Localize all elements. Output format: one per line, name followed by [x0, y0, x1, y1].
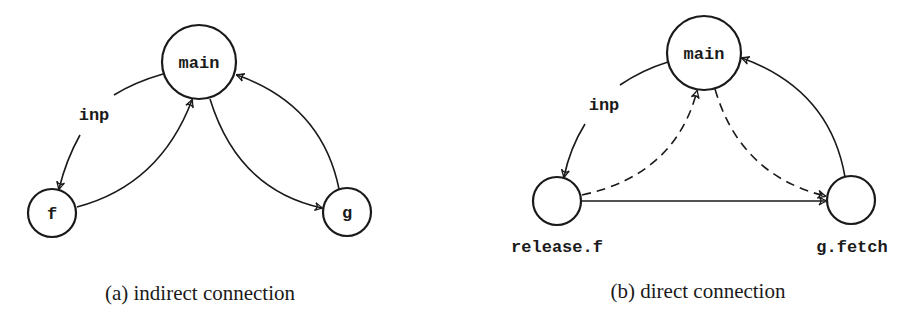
edge-main-to-f-upper [114, 74, 163, 95]
caption-a: (a) indirect connection [105, 281, 296, 305]
node-main-label: main [179, 54, 220, 73]
node-g-fetch [827, 176, 875, 224]
node-g-label: g [342, 204, 352, 223]
edge-main-to-g-fetch-dashed [715, 89, 825, 196]
edge-label-inp: inp [79, 106, 110, 125]
edge-main-to-g [210, 99, 322, 208]
node-release-f-label: release.f [511, 238, 603, 257]
edge-main-to-release-f-upper [620, 62, 668, 85]
edge-label-inp-b: inp [589, 96, 620, 115]
panel-b: main inp release.f g.fetch (b) direct co… [511, 16, 888, 303]
node-g-fetch-label: g.fetch [816, 238, 887, 257]
edge-main-to-release-f-lower [564, 124, 585, 177]
node-main-b-label: main [684, 45, 725, 64]
panel-a: main f g inp (a) indirect connection [28, 25, 371, 305]
edge-g-fetch-to-main [742, 58, 845, 177]
caption-b: (b) direct connection [611, 279, 786, 303]
node-release-f [533, 177, 581, 225]
edge-main-to-f-lower [59, 135, 80, 189]
node-f-label: f [47, 205, 57, 224]
diagram-canvas: main f g inp (a) indirect connection mai… [0, 0, 914, 326]
